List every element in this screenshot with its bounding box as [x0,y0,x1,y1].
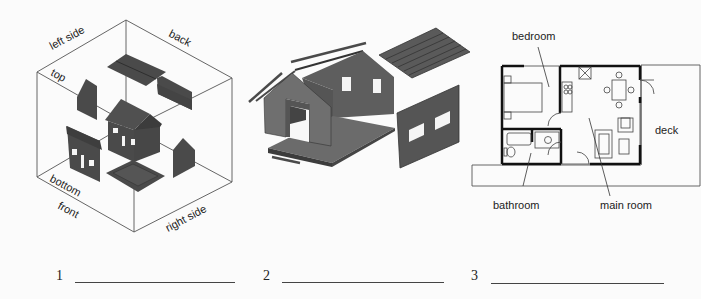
figure-exploded-house [249,28,470,168]
center-house [105,99,162,162]
label-bathroom: bathroom [493,199,539,211]
label-left-side: left side [47,23,86,51]
answer-number-3: 3 [471,268,478,284]
label-main-room: main room [600,199,652,211]
label-front: front [56,199,81,220]
left-gable-panel [77,79,97,120]
side-wall-panel [397,85,459,168]
roof-panel [379,28,470,78]
front-wall-panel [66,126,102,182]
answer-number-1: 1 [56,268,63,284]
answer-line-2[interactable] [282,282,444,283]
right-gable-panel [173,138,195,178]
label-bedroom: bedroom [512,30,555,42]
label-bottom: bottom [48,172,83,198]
label-back: back [167,27,194,49]
answer-line-3[interactable] [491,283,664,284]
answer-number-2: 2 [263,268,270,284]
figure-floor-plan: bedroom bathroom main room deck [472,30,700,211]
bed [504,76,542,119]
label-right-side: right side [163,202,208,234]
label-deck: deck [655,124,679,136]
label-top: top [49,66,68,84]
answer-line-1[interactable] [75,282,235,283]
figure-cube: left side back top bottom front right si… [37,20,232,234]
